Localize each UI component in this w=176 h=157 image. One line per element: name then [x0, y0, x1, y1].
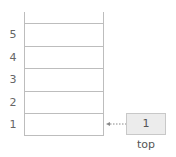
- slot-index-label: 2: [8, 97, 18, 109]
- top-pointer-label: top: [126, 138, 166, 151]
- top-pointer-box: 1: [126, 113, 166, 135]
- pointer-arrow-icon: [106, 120, 126, 128]
- stack-slot-3: [25, 68, 103, 91]
- stack-slot-5: [25, 23, 103, 46]
- stack-slot-4: [25, 46, 103, 69]
- stack-slot-2: [25, 91, 103, 114]
- slot-index-label: 3: [8, 74, 18, 86]
- slot-index-label: 1: [8, 119, 18, 131]
- slot-index-label: 5: [8, 29, 18, 41]
- slot-index-label: 4: [8, 52, 18, 64]
- stack-slot-1: [25, 113, 103, 136]
- stack-container: [24, 12, 104, 136]
